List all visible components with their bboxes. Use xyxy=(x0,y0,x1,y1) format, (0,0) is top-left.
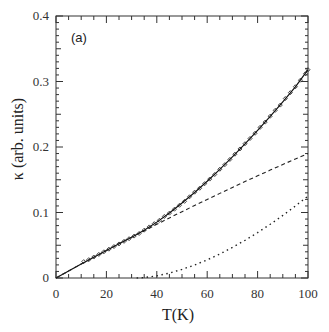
y-tick-label: 0.2 xyxy=(33,139,49,154)
y-tick-label: 0.3 xyxy=(33,74,49,89)
x-axis-title: T(K) xyxy=(162,306,194,324)
x-tick-label: 0 xyxy=(53,286,60,301)
measured-data-points xyxy=(82,68,310,264)
y-tick-label: 0.4 xyxy=(33,8,50,23)
x-tick-labels: 020406080100 xyxy=(53,286,318,301)
y-tick-label: 0 xyxy=(43,270,50,285)
fit-line-dotted xyxy=(137,196,308,278)
y-tick-labels: 00.10.20.30.4 xyxy=(33,8,50,285)
panel-label: (a) xyxy=(71,30,87,45)
axis-ticks xyxy=(56,16,308,278)
x-tick-label: 100 xyxy=(298,286,318,301)
x-tick-label: 80 xyxy=(251,286,264,301)
x-tick-label: 20 xyxy=(100,286,113,301)
x-tick-label: 40 xyxy=(150,286,163,301)
y-axis-title: κ (arb. units) xyxy=(9,98,27,180)
series-layer xyxy=(56,68,310,278)
chart-figure: 020406080100 00.10.20.30.4 (a) T(K) κ (a… xyxy=(0,0,329,332)
x-tick-label: 60 xyxy=(201,286,214,301)
fit-line-solid xyxy=(56,70,308,278)
plot-frame xyxy=(56,16,308,278)
y-tick-label: 0.1 xyxy=(33,205,49,220)
